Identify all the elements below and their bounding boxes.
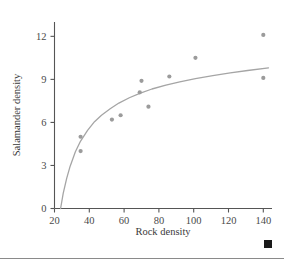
- horizontal-rule: [0, 258, 284, 259]
- x-tick-label: 140: [255, 215, 271, 226]
- data-point: [79, 135, 83, 139]
- x-axis-title: Rock density: [135, 226, 191, 237]
- y-tick-label: 0: [41, 203, 46, 214]
- x-tick-label: 20: [49, 215, 60, 226]
- y-axis-title: Salamander density: [11, 73, 22, 156]
- y-tick-label: 3: [41, 160, 46, 171]
- data-points-group: [79, 33, 266, 153]
- x-tick-label: 80: [154, 215, 165, 226]
- x-tick-label: 100: [186, 215, 202, 226]
- x-tick-label: 60: [119, 215, 130, 226]
- x-tick-label: 40: [84, 215, 95, 226]
- data-point: [110, 117, 114, 121]
- y-axis-tick-labels: 036912: [36, 31, 47, 214]
- y-tick-label: 9: [41, 74, 46, 85]
- data-point: [146, 105, 150, 109]
- data-point: [119, 113, 123, 117]
- x-axis-ticks: [55, 209, 264, 213]
- data-point: [139, 79, 143, 83]
- y-axis-ticks: [51, 36, 55, 208]
- data-point: [261, 33, 265, 37]
- data-point: [261, 76, 265, 80]
- x-tick-label: 120: [221, 215, 237, 226]
- data-point: [167, 74, 171, 78]
- data-point: [138, 90, 142, 94]
- data-point: [79, 149, 83, 153]
- y-tick-label: 6: [41, 117, 46, 128]
- plot-axes: [55, 22, 273, 209]
- scatter-plot-canvas: 036912 20406080100120140 Rock density Sa…: [0, 0, 284, 264]
- x-axis-tick-labels: 20406080100120140: [49, 215, 271, 226]
- chart-figure: 036912 20406080100120140 Rock density Sa…: [0, 0, 284, 264]
- fitted-curve: [61, 68, 269, 209]
- filled-square-marker: [264, 240, 272, 248]
- data-point: [193, 56, 197, 60]
- y-tick-label: 12: [36, 31, 47, 42]
